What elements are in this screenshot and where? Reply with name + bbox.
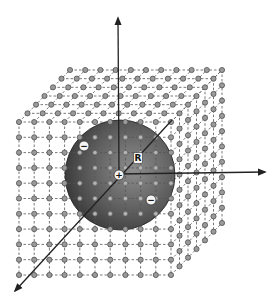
negative-charge-icon: − [79,141,89,151]
svg-text:+: + [115,170,123,180]
svg-text:−: − [80,141,88,151]
positive-charge-icon: + [114,170,124,180]
lattice-diagram: +−−R [0,0,280,308]
negative-charge-icon: − [146,195,156,205]
svg-text:−: − [147,195,155,205]
svg-text:R: R [135,153,142,163]
radius-label: R [134,153,143,164]
